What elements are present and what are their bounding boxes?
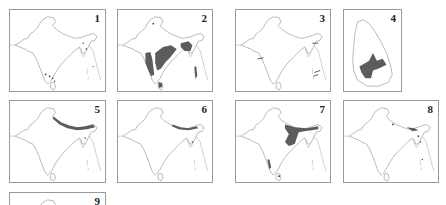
panel-number: 4 [391,12,397,24]
locality-arrow [314,71,320,73]
panel-number: 6 [202,103,208,115]
panel-number: 8 [428,103,434,115]
map-panel-8: 8 [343,100,439,183]
map-panel-9: 9 [9,192,106,205]
map-south-asia [10,10,105,91]
map-south-asia [118,101,212,182]
locality-arrow [258,58,264,59]
panel-number: 5 [95,103,101,115]
map-panel-1: 1 [9,9,106,92]
map-panel-2: 2 [117,9,213,92]
panel-number: 3 [320,12,326,24]
locality-arrow [313,74,318,76]
map-south-asia [236,101,330,182]
map-panel-4: 4 [343,9,402,92]
panel-number: 1 [95,12,101,24]
map-panel-3: 3 [235,9,331,92]
panel-number: 7 [320,103,326,115]
map-south-asia [236,10,330,91]
map-panel-5: 5 [9,100,106,183]
map-south-asia [118,10,212,91]
map-panel-7: 7 [235,100,331,183]
map-south-asia [344,101,438,182]
map-south-asia [10,193,105,205]
map-south-asia [10,101,105,182]
panel-number: 2 [202,12,208,24]
panel-number: 9 [95,195,101,205]
map-panel-6: 6 [117,100,213,183]
